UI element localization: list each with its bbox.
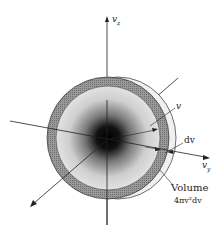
dv-label: dv xyxy=(184,135,195,145)
v-label: v xyxy=(176,101,181,111)
volume-title: Volume xyxy=(171,182,208,193)
vy-label: vy xyxy=(202,160,210,172)
vz-arrowhead xyxy=(105,16,109,22)
volume-formula: 4πv²dv xyxy=(174,196,202,205)
inner-sphere xyxy=(56,86,160,190)
vz-label: vz xyxy=(112,14,120,26)
